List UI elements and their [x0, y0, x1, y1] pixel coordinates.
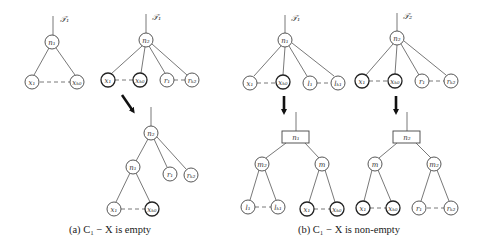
- svg-text:xₖ₀: xₖ₀: [135, 77, 145, 85]
- node-l1: l₁: [241, 200, 255, 214]
- node-rk: rₖ₂: [444, 74, 458, 88]
- panel-b: 𝒯₁ n₁ x₁ xₖ₀ l₁: [241, 12, 458, 236]
- transform-arrow: [122, 95, 133, 111]
- svg-text:x₁: x₁: [29, 79, 36, 87]
- node-m2: m₂: [255, 157, 269, 171]
- svg-text:rₖ₂: rₖ₂: [187, 172, 196, 180]
- svg-text:xₖ₀: xₖ₀: [72, 79, 82, 87]
- panel-b-tree-t2: 𝒯₂ n₂ x₁ xₖ₀ r₁: [355, 12, 458, 88]
- svg-text:x₁: x₁: [360, 205, 367, 213]
- node-n2: n₂: [390, 31, 404, 45]
- svg-text:n₂: n₂: [142, 37, 150, 45]
- svg-text:xₖ₀: xₖ₀: [332, 206, 342, 214]
- node-r1: r₁: [160, 73, 174, 87]
- svg-text:l₁: l₁: [307, 80, 312, 88]
- svg-text:x₁: x₁: [111, 206, 118, 214]
- node-rk: rₖ₂: [185, 73, 199, 87]
- node-xk: xₖ₀: [70, 75, 84, 89]
- node-n2: n₂: [139, 33, 153, 47]
- node-x1: x₁: [300, 202, 314, 216]
- node-rk: rₖ₂: [444, 201, 458, 215]
- svg-text:m: m: [319, 161, 326, 169]
- panel-a-result-tree: n₂ n₁ r₁ rₖ₂ x₁ xₖ₀: [107, 107, 198, 216]
- node-xk: xₖ₀: [276, 75, 290, 89]
- panel-a: 𝒯₁ n₁ x₁ xₖ₀ 𝒯₁: [25, 13, 199, 236]
- svg-text:x₁: x₁: [304, 206, 311, 214]
- svg-text:xₖ₀: xₖ₀: [390, 78, 400, 86]
- node-x1: x₁: [25, 75, 39, 89]
- svg-text:n₂: n₂: [403, 134, 411, 142]
- svg-text:n₁: n₁: [48, 39, 56, 47]
- svg-text:n₂: n₂: [147, 130, 155, 138]
- svg-text:r₁: r₁: [416, 205, 422, 213]
- panel-b-tree-t1: 𝒯₁ n₁ x₁ xₖ₀ l₁: [243, 14, 345, 90]
- node-r1: r₁: [415, 74, 429, 88]
- node-x1: x₁: [107, 202, 121, 216]
- svg-text:rₖ₂: rₖ₂: [447, 205, 456, 213]
- panel-a-tree-t1: 𝒯₁ n₁ x₁ xₖ₀: [25, 15, 84, 89]
- svg-text:x₁: x₁: [105, 77, 112, 85]
- tree-label-t2: 𝒯₁: [152, 13, 161, 22]
- node-xk: xₖ₀: [386, 201, 400, 215]
- svg-text:rₖ₂: rₖ₂: [447, 78, 456, 86]
- node-xk: xₖ₀: [145, 202, 159, 216]
- caption-a: (a) C₁ − X is empty: [69, 224, 152, 236]
- node-n2: n₂: [144, 126, 158, 140]
- caption-b: (b) C₁ − X is non-empty: [298, 224, 401, 236]
- node-m: m: [368, 157, 382, 171]
- node-x1: x₁: [355, 74, 369, 88]
- svg-text:n₁: n₁: [292, 134, 300, 142]
- svg-text:xₖ₀: xₖ₀: [278, 79, 288, 87]
- node-r1: r₁: [163, 167, 177, 181]
- node-x1: x₁: [101, 73, 115, 87]
- svg-text:r₁: r₁: [167, 171, 173, 179]
- tree-transformation-diagram: 𝒯₁ n₁ x₁ xₖ₀ 𝒯₁: [0, 0, 481, 252]
- svg-text:rₖ₂: rₖ₂: [188, 77, 197, 85]
- svg-text:n₁: n₁: [281, 37, 289, 45]
- svg-text:r₁: r₁: [419, 78, 425, 86]
- tree-label-t1: 𝒯₁: [291, 14, 300, 23]
- panel-b-result-t1: n₁ m₂ m l₁ lₖ₁: [241, 112, 344, 216]
- svg-text:lₖ₁: lₖ₁: [334, 80, 342, 88]
- node-r1: r₁: [412, 201, 426, 215]
- node-xk: xₖ₀: [388, 74, 402, 88]
- panel-b-result-t2: n₂ m m₂ x₁ xₖ₀: [356, 112, 458, 215]
- svg-text:n₁: n₁: [129, 164, 137, 172]
- svg-text:xₖ₀: xₖ₀: [147, 206, 157, 214]
- node-n1: n₁: [45, 35, 59, 49]
- panel-a-tree-t2: 𝒯₁ n₂ x₁ xₖ₀ r₁: [101, 13, 199, 87]
- node-x1: x₁: [356, 201, 370, 215]
- svg-text:m: m: [372, 161, 379, 169]
- node-lk: lₖ₁: [331, 76, 345, 90]
- node-l1: l₁: [303, 76, 317, 90]
- node-x1: x₁: [243, 76, 257, 90]
- node-xk: xₖ₀: [330, 202, 344, 216]
- svg-text:xₖ₀: xₖ₀: [388, 205, 398, 213]
- node-m: m: [315, 157, 329, 171]
- node-n1: n₁: [278, 33, 292, 47]
- svg-text:x₁: x₁: [247, 80, 254, 88]
- svg-text:m₂: m₂: [429, 161, 439, 169]
- svg-text:l₁: l₁: [245, 204, 250, 212]
- node-lk: lₖ₁: [271, 200, 285, 214]
- node-m2: m₂: [427, 157, 441, 171]
- node-rk: rₖ₂: [184, 168, 198, 182]
- svg-text:r₁: r₁: [164, 77, 170, 85]
- svg-text:m₂: m₂: [257, 161, 267, 169]
- tree-label-t1: 𝒯₁: [60, 15, 69, 24]
- svg-text:x₁: x₁: [359, 78, 366, 86]
- tree-label-t2: 𝒯₂: [403, 12, 412, 21]
- svg-text:n₂: n₂: [393, 35, 401, 43]
- node-n1: n₁: [126, 160, 140, 174]
- svg-text:lₖ₁: lₖ₁: [274, 204, 282, 212]
- node-xk: xₖ₀: [133, 73, 147, 87]
